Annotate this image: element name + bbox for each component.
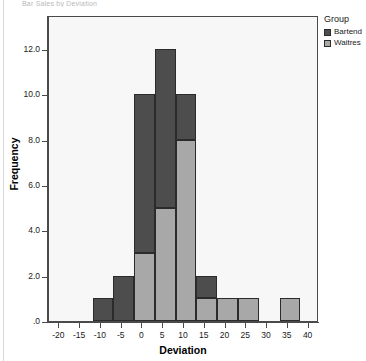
bar-segment-bartend — [113, 276, 134, 321]
bar-segment-bartend — [176, 94, 197, 139]
bar-segment-bartend — [93, 298, 114, 321]
y-tick-label: 8.0 — [28, 136, 40, 145]
y-tick-label: .0 — [33, 317, 40, 326]
y-tick-label: 12.0 — [23, 45, 40, 54]
x-tick-label: 40 — [296, 330, 320, 340]
legend-item: Waitres — [324, 38, 366, 48]
plot-area — [48, 16, 318, 322]
histogram-bar — [93, 298, 114, 321]
legend-item: Bartend — [324, 27, 366, 37]
legend-swatch-icon — [324, 40, 331, 47]
histogram-figure: Bar Sales by Deviation .02.04.06.08.010.… — [0, 0, 366, 361]
page-edge-rule — [3, 0, 4, 361]
histogram-bar — [280, 298, 301, 321]
figure-title-clipped: Bar Sales by Deviation — [22, 0, 182, 7]
bar-segment-waitres — [176, 140, 197, 321]
x-tick-mark — [58, 323, 59, 328]
legend: Group BartendWaitres — [324, 14, 366, 49]
y-tick-mark — [42, 50, 47, 51]
histogram-bar — [155, 49, 176, 321]
x-tick-mark — [162, 323, 163, 328]
bar-segment-waitres — [196, 298, 217, 321]
y-tick-mark — [42, 95, 47, 96]
y-tick-mark — [42, 186, 47, 187]
x-tick-mark — [79, 323, 80, 328]
y-tick-label: 10.0 — [23, 90, 40, 99]
y-tick-mark — [42, 322, 47, 323]
histogram-bar — [196, 276, 217, 321]
y-axis-line — [47, 16, 48, 323]
histogram-bar — [217, 298, 238, 321]
legend-title: Group — [324, 14, 366, 24]
x-tick-mark — [245, 323, 246, 328]
bar-segment-waitres — [217, 298, 238, 321]
y-axis-title: Frequency — [8, 124, 20, 204]
x-tick-mark — [308, 323, 309, 328]
bar-segment-waitres — [134, 253, 155, 321]
histogram-bar — [238, 298, 259, 321]
bar-segment-waitres — [280, 298, 301, 321]
y-tick-label: 2.0 — [28, 272, 40, 281]
bar-segment-bartend — [134, 94, 155, 253]
legend-item-label: Bartend — [334, 27, 362, 37]
x-tick-mark — [225, 323, 226, 328]
x-tick-mark — [204, 323, 205, 328]
bar-segment-waitres — [238, 298, 259, 321]
y-tick-mark — [42, 141, 47, 142]
legend-entries: BartendWaitres — [324, 27, 366, 48]
y-tick-mark — [42, 277, 47, 278]
x-tick-mark — [121, 323, 122, 328]
bar-segment-bartend — [196, 276, 217, 299]
y-tick-label: 6.0 — [28, 181, 40, 190]
bars-layer — [49, 17, 317, 321]
histogram-bar — [113, 276, 134, 321]
x-axis-title: Deviation — [0, 344, 366, 356]
x-tick-mark — [287, 323, 288, 328]
x-tick-mark — [141, 323, 142, 328]
y-tick-mark — [42, 231, 47, 232]
histogram-bar — [176, 94, 197, 321]
legend-swatch-icon — [324, 29, 331, 36]
bar-segment-waitres — [155, 208, 176, 321]
x-tick-mark — [100, 323, 101, 328]
y-tick-label: 4.0 — [28, 226, 40, 235]
bar-segment-bartend — [155, 49, 176, 208]
x-tick-mark — [266, 323, 267, 328]
histogram-bar — [134, 94, 155, 321]
x-tick-mark — [183, 323, 184, 328]
legend-item-label: Waitres — [334, 38, 361, 48]
